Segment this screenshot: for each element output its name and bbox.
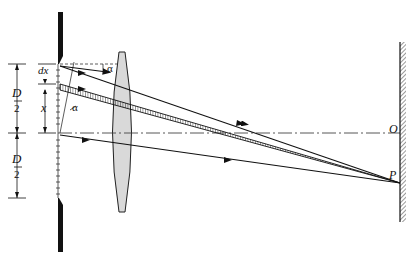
ray-bottom bbox=[60, 135, 400, 183]
label-d-top: D bbox=[12, 85, 21, 101]
slit-barrier-top bbox=[58, 12, 63, 64]
converging-lens bbox=[113, 52, 132, 212]
ray-top bbox=[60, 66, 400, 183]
wavefront-line bbox=[60, 62, 74, 133]
slit-scale-ticks bbox=[56, 64, 60, 198]
label-o: O bbox=[389, 122, 398, 137]
label-d-top-den: 2 bbox=[14, 102, 20, 114]
label-alpha-top: α bbox=[107, 62, 113, 74]
slit-barrier-bottom bbox=[58, 198, 63, 252]
hatched-beam-dx bbox=[60, 84, 400, 183]
label-dx: dx bbox=[38, 64, 48, 76]
label-p: P bbox=[389, 168, 396, 183]
label-d-bottom-den: 2 bbox=[14, 168, 20, 180]
screen bbox=[400, 42, 406, 222]
diffraction-diagram bbox=[0, 0, 414, 262]
label-alpha-slit: α bbox=[72, 101, 78, 113]
label-x: x bbox=[41, 101, 46, 116]
label-d-bottom: D bbox=[12, 151, 21, 167]
